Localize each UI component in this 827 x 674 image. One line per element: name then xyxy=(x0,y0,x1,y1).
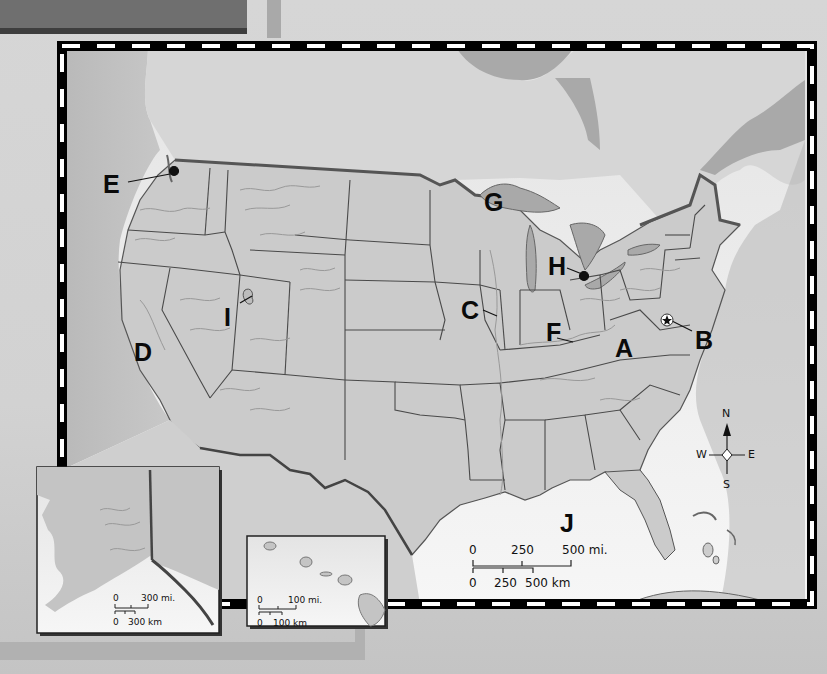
compass-west: W xyxy=(696,449,707,460)
alaska-scale-mi-300: 300 mi. xyxy=(141,594,175,603)
alaska-scale-km-0: 0 xyxy=(113,618,119,627)
marker-dot-e xyxy=(170,167,179,176)
hawaii-scale-mi-100: 100 mi. xyxy=(288,596,322,605)
label-j: J xyxy=(560,511,574,536)
compass-east: E xyxy=(748,449,755,460)
label-f: F xyxy=(546,320,561,345)
label-c: C xyxy=(461,298,479,323)
hawaii-scale-mi-0: 0 xyxy=(257,596,263,605)
scale-km-0: 0 xyxy=(469,577,477,589)
marker-dot-h xyxy=(580,272,589,281)
label-i: I xyxy=(224,305,231,330)
hawaii-scale-km-0: 0 xyxy=(257,619,263,628)
alaska-scale-km-300: 300 km xyxy=(128,618,162,627)
alaska-scale-mi-0: 0 xyxy=(113,594,119,603)
scale-mi-0: 0 xyxy=(469,544,477,556)
hawaii-scale-km-100: 100 km xyxy=(273,619,307,628)
label-d: D xyxy=(134,340,152,365)
scale-km-500: 500 km xyxy=(525,577,570,589)
label-g: G xyxy=(484,190,503,215)
scale-mi-500: 500 mi. xyxy=(562,544,608,556)
scale-mi-250: 250 xyxy=(511,544,534,556)
label-h: H xyxy=(548,254,566,279)
label-b: B xyxy=(695,328,713,353)
compass-south: S xyxy=(723,479,730,490)
star-marker-b xyxy=(661,314,673,326)
label-a: A xyxy=(615,336,633,361)
label-e: E xyxy=(103,172,120,197)
compass-north: N xyxy=(722,408,730,419)
scale-km-250: 250 xyxy=(494,577,517,589)
hawaii-inset xyxy=(247,536,388,629)
